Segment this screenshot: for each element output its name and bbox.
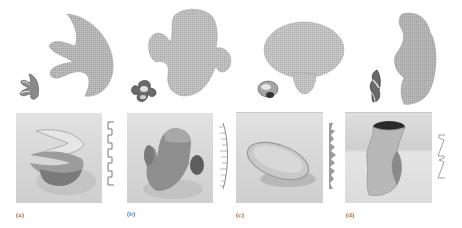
profile-d: [436, 134, 446, 182]
profile-a: [106, 121, 116, 189]
photo-b: [127, 113, 213, 203]
mesh-render-a: [45, 10, 117, 100]
photo-c: [236, 113, 323, 203]
photo-a: [16, 113, 102, 203]
mesh-render-d: [392, 10, 440, 106]
panel-label-d: (d): [346, 211, 354, 219]
thumbnail-render-b: [130, 78, 158, 104]
profile-b: [217, 121, 231, 191]
panel-label-c: (c): [236, 211, 244, 219]
thumbnail-render-d: [367, 68, 383, 104]
thumbnail-render-c: [256, 79, 280, 101]
panel-label-b: (b): [127, 210, 135, 218]
thumbnail-render-a: [17, 72, 41, 102]
profile-c: [327, 121, 337, 191]
panel-label-a: (a): [16, 211, 24, 219]
mesh-render-b: [146, 2, 236, 98]
photo-d: [345, 113, 432, 203]
